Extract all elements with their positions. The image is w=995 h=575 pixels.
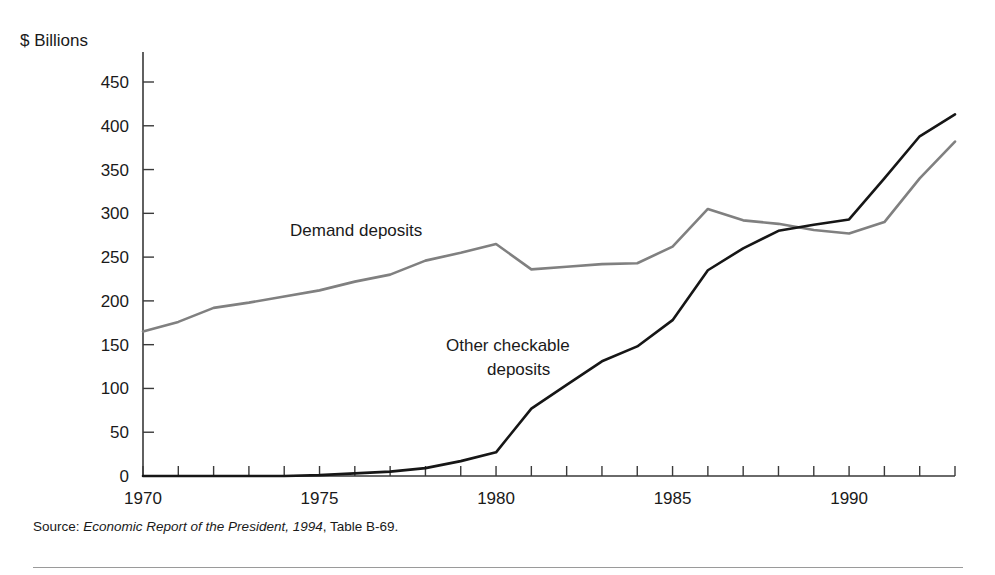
series-annotation-3: deposits <box>487 360 550 379</box>
y-tick-label: 300 <box>101 204 129 223</box>
x-tick-label: 1985 <box>654 489 692 508</box>
series-annotation-2: Other checkable <box>446 336 570 355</box>
chart-figure: $ Billions450400350300250200150100500197… <box>0 0 995 575</box>
y-tick-label: 250 <box>101 248 129 267</box>
y-tick-label: 400 <box>101 117 129 136</box>
series-line-other-checkable-deposits <box>143 114 955 476</box>
y-tick-label: 350 <box>101 161 129 180</box>
x-tick-label: 1980 <box>477 489 515 508</box>
y-tick-label: 200 <box>101 292 129 311</box>
chart-plot-area: $ Billions450400350300250200150100500197… <box>20 31 955 508</box>
y-axis-unit-label: $ Billions <box>20 31 88 50</box>
y-tick-label: 50 <box>110 423 129 442</box>
y-tick-label: 0 <box>120 467 129 486</box>
series-line-demand-deposits <box>143 142 955 332</box>
source-prefix: Source: <box>33 519 80 534</box>
y-tick-label: 150 <box>101 336 129 355</box>
y-tick-label: 100 <box>101 379 129 398</box>
bottom-divider <box>33 567 963 568</box>
source-note: Source: Economic Report of the President… <box>33 519 398 534</box>
x-tick-label: 1970 <box>124 489 162 508</box>
chart-axes <box>143 52 955 476</box>
y-tick-label: 450 <box>101 73 129 92</box>
series-annotation-1: Demand deposits <box>290 221 422 240</box>
x-tick-label: 1990 <box>830 489 868 508</box>
x-tick-label: 1975 <box>301 489 339 508</box>
source-suffix: , Table B-69. <box>323 519 399 534</box>
source-citation-italic: Economic Report of the President, 1994 <box>83 519 322 534</box>
